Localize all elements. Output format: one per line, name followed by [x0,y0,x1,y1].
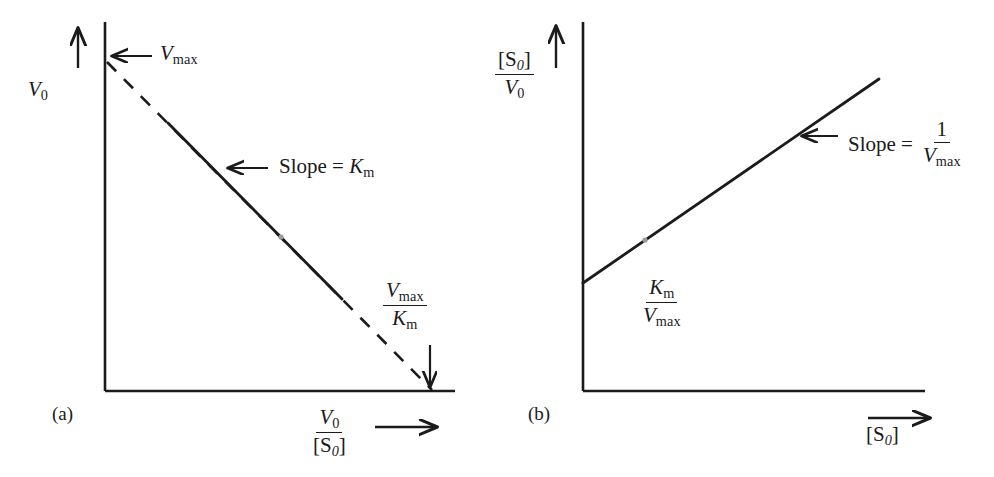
panel-a-x-axis-denominator: [S0] [310,433,349,459]
panel-a-tag: (a) [52,404,73,424]
panel-b-tag: (b) [528,404,550,424]
panel-a-slope-text: Slope = [279,154,349,178]
panel-b-data-point [642,237,647,242]
panel-b-yintercept-label: Km Vmax [640,276,684,330]
panel-a-y-axis-symbol: V [28,77,41,101]
panel-b-slope-row: Slope = 1 Vmax [848,118,964,169]
panel-a-annotation-arrows [112,56,437,427]
panel-b-axes [556,22,925,391]
panel-b-slope-numerator: 1 [934,118,951,143]
panel-a-vmax-symbol: V [160,41,173,65]
panel-b-y-axis-numerator: [S0] [495,48,534,75]
kinetics-figure: (a) V0 Vmax Slope = Km Vmax Km V0 [S0] (… [0,0,994,477]
panel-b-slope-denominator: Vmax [920,143,964,169]
panel-a-slope-subscript: m [363,164,374,180]
panel-a-x-axis-numerator: V0 [316,406,342,433]
panel-a-axes [78,22,455,391]
panel-b-x-axis-subscript: 0 [885,432,892,448]
panel-b-curve [583,79,879,283]
panel-a-xintercept-denominator: Km [389,306,420,332]
panel-a-vmax-label: Vmax [160,42,198,67]
panel-b-y-axis-fraction: [S0] V0 [495,48,534,102]
panel-a-x-axis-label: V0 [S0] [310,406,349,460]
panel-a-slope-symbol: K [349,154,363,178]
panel-b-slope-text: Slope = [848,133,913,155]
panel-a-y-axis-subscript: 0 [41,87,48,103]
panel-a-slope-label: Slope = Km [279,155,374,180]
panel-a-xintercept-fraction: Vmax Km [383,279,427,333]
panel-b-yintercept-denominator: Vmax [640,303,684,329]
panel-a-solid-segment [168,123,342,299]
panel-a-xintercept-label: Vmax Km [383,279,427,333]
panel-a-curve [107,62,432,390]
panel-b-yintercept-numerator: Km [646,276,677,303]
panel-b-slope-label: Slope = 1 Vmax [848,118,964,169]
panel-a-vmax-subscript: max [173,51,198,67]
panel-b-annotation-arrows [802,136,930,418]
panel-b-x-axis-close: ] [892,422,899,446]
panel-a-x-axis-fraction: V0 [S0] [310,406,349,460]
panel-b-slope-fraction: 1 Vmax [920,118,964,169]
panel-b-yintercept-fraction: Km Vmax [640,276,684,330]
panel-b-x-axis-open: [S [866,422,885,446]
panel-a-xintercept-numerator: Vmax [383,279,427,306]
panel-a-y-axis-label: V0 [28,78,48,103]
panel-a-data-point [278,234,283,239]
panel-b-y-axis-label: [S0] V0 [495,48,534,102]
panel-b-y-axis-denominator: V0 [501,75,527,101]
panel-b-line [583,79,879,283]
panel-b-x-axis-label: [S0] [866,423,899,448]
